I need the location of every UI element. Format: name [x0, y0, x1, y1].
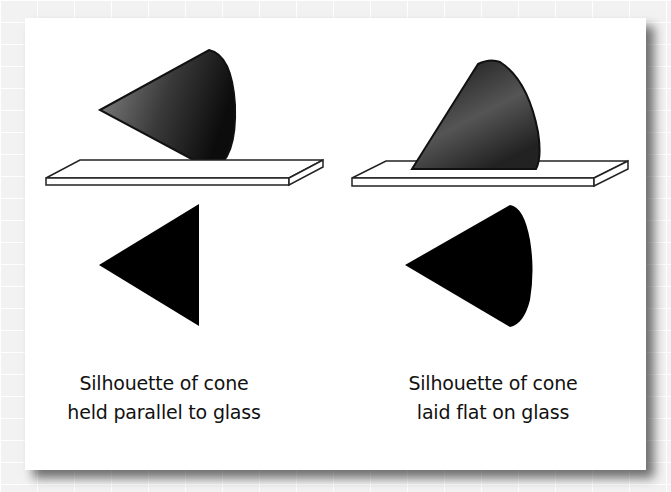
- caption-parallel-line2: held parallel to glass: [34, 398, 294, 427]
- caption-parallel: Silhouette of cone held parallel to glas…: [34, 369, 294, 427]
- cone-flat-illustration: [412, 60, 540, 169]
- caption-flat: Silhouette of cone laid flat on glass: [363, 369, 623, 427]
- cone-parallel: [100, 50, 235, 170]
- glass-slab-left: [46, 160, 323, 185]
- cone-parallel-illustration: [100, 50, 235, 170]
- caption-parallel-line1: Silhouette of cone: [34, 369, 294, 398]
- silhouette-rounded-sector: [405, 205, 533, 327]
- cone-flat: [412, 60, 540, 169]
- caption-flat-line2: laid flat on glass: [363, 398, 623, 427]
- caption-flat-line1: Silhouette of cone: [363, 369, 623, 398]
- silhouette-triangle: [99, 204, 199, 326]
